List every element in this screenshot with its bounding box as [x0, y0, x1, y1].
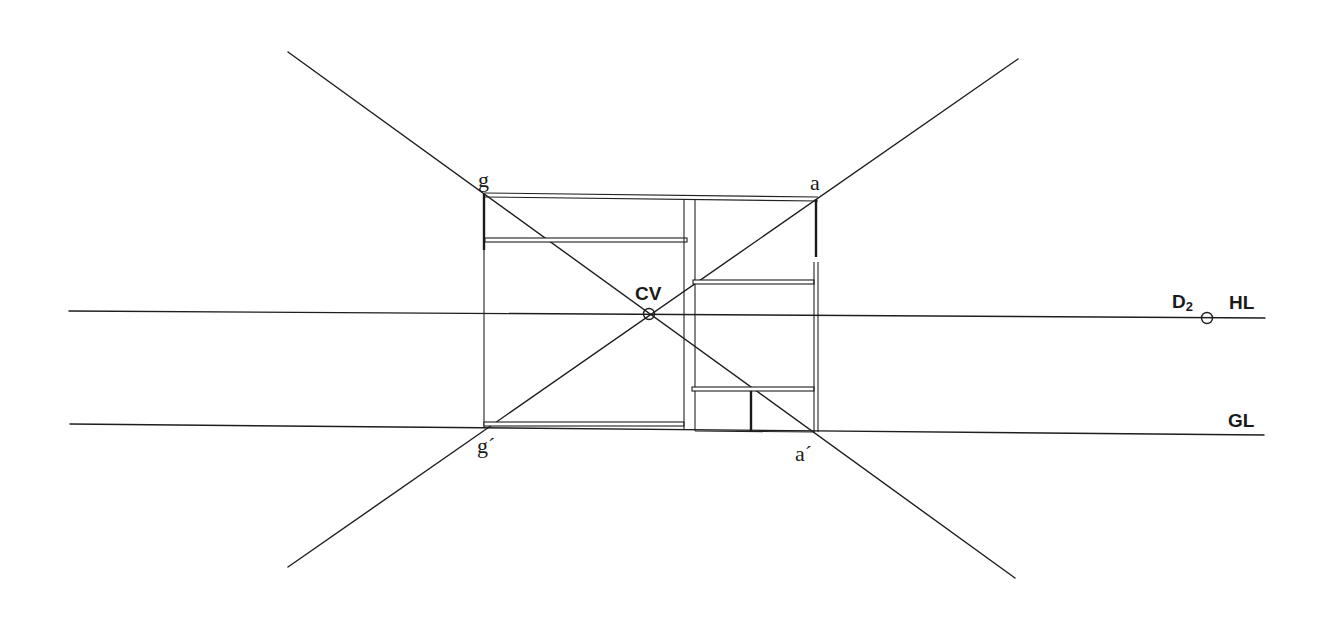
horizon-line — [69, 311, 1265, 318]
top-frame-bar — [484, 193, 818, 201]
corner-label-g: g — [478, 167, 489, 192]
perspective-diagram: CV D2 HL GL g a g´ a´ — [0, 0, 1333, 619]
left-upper-shelf — [485, 238, 687, 242]
corner-label-g-prime: g´ — [477, 433, 495, 458]
gl-label: GL — [1228, 410, 1255, 431]
cv-label: CV — [635, 283, 662, 304]
hl-label: HL — [1229, 292, 1255, 313]
left-bottom-shelf — [484, 422, 684, 426]
corner-label-a: a — [810, 170, 820, 195]
d2-label: D2 — [1172, 291, 1193, 314]
right-upper-shelf — [693, 280, 814, 284]
right-lower-shelf — [692, 387, 814, 391]
corner-label-a-prime: a´ — [795, 441, 812, 466]
diagonal-g-to-a-prime — [288, 52, 1015, 578]
